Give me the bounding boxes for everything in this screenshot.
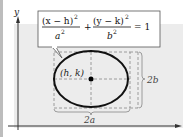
equation-rhs: = 1 (134, 22, 150, 32)
left-border (0, 0, 3, 137)
y-axis-label: y (13, 7, 20, 17)
term2-exponent: 2 (125, 13, 129, 20)
diagram-svg: y (h, k) 2b 2a (x − h) 2 a 2 + (y − k) 2… (0, 0, 183, 137)
term2-numerator: (y − k) (93, 16, 124, 26)
ellipse-diagram: y (h, k) 2b 2a (x − h) 2 a 2 + (y − k) 2… (0, 0, 183, 137)
center-point (89, 77, 94, 82)
term1-denominator: a (55, 31, 60, 41)
term1-numerator: (x − h) (42, 16, 73, 26)
term1-den-exponent: 2 (61, 28, 65, 35)
y-axis-arrow-icon (16, 16, 20, 23)
term2-den-exponent: 2 (113, 28, 117, 35)
width-label: 2a (83, 115, 95, 125)
plus-sign: + (84, 22, 92, 32)
callout-joint (52, 46, 57, 48)
center-label: (h, k) (60, 68, 84, 78)
term1-exponent: 2 (74, 13, 78, 20)
height-label: 2b (146, 75, 159, 85)
